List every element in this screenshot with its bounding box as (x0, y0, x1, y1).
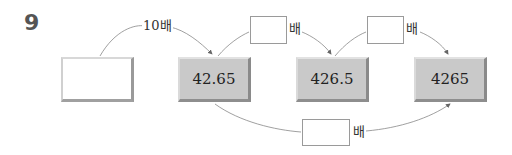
multiplier-suffix: 배 (288, 22, 302, 35)
answer-box-b1-to-b3[interactable] (302, 119, 350, 146)
value-box-426-5: 426.5 (296, 57, 369, 102)
multiplier-label-10x: 10배 (142, 19, 173, 32)
value-box-4265: 4265 (414, 57, 487, 102)
multiplier-suffix: 배 (405, 22, 419, 35)
box-value: 426.5 (311, 70, 354, 88)
value-box-42-65: 42.65 (178, 57, 251, 102)
blank-start-box[interactable] (61, 57, 134, 102)
box-value: 42.65 (193, 70, 236, 88)
multiplier-suffix: 배 (352, 125, 366, 138)
box-value: 4265 (431, 70, 469, 88)
answer-box-b1-to-b2[interactable] (250, 16, 287, 44)
answer-box-b2-to-b3[interactable] (367, 16, 404, 44)
